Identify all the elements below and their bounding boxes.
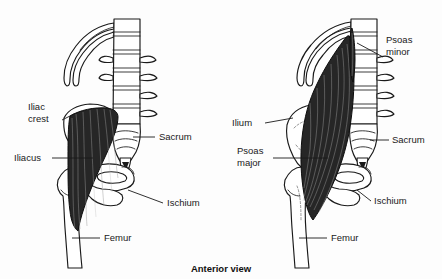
label-iliacus: Iliacus (14, 152, 41, 163)
label-psoas-major-line1: Psoas (237, 145, 264, 156)
label-psoas-minor-line2: minor (386, 46, 410, 57)
figure-caption: Anterior view (191, 263, 252, 274)
label-psoas-minor-line1: Psoas (386, 34, 413, 45)
label-femur-right: Femur (331, 232, 358, 243)
label-femur: Femur (104, 232, 131, 243)
label-ilium: Ilium (232, 117, 252, 128)
label-psoas-major-line2: major (237, 157, 261, 168)
anatomy-figure: Iliac crest Iliacus Sacrum Ischium Femur (0, 0, 442, 279)
label-iliac-crest-line2: crest (28, 113, 49, 124)
label-sacrum: Sacrum (159, 131, 192, 142)
label-sacrum-right: Sacrum (392, 134, 425, 145)
label-iliac-crest-line1: Iliac (28, 101, 45, 112)
label-ischium: Ischium (167, 197, 200, 208)
label-ischium-right: Ischium (374, 195, 407, 206)
